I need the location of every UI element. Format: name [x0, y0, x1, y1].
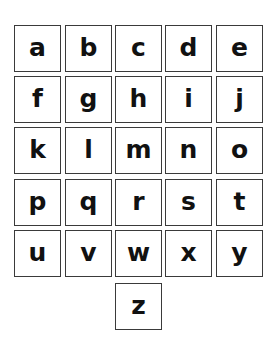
letter-card-s: s	[165, 179, 212, 226]
letter-card-o: o	[216, 127, 263, 174]
letter-label: t	[234, 189, 246, 214]
letter-label: p	[29, 189, 47, 214]
letter-label: j	[235, 86, 244, 111]
letter-card-u: u	[14, 230, 61, 277]
letter-card-p: p	[14, 179, 61, 226]
letter-card-k: k	[14, 127, 61, 174]
letter-card-z: z	[115, 283, 162, 330]
letter-card-r: r	[115, 179, 162, 226]
letter-label: r	[132, 189, 144, 214]
letter-card-b: b	[65, 25, 112, 72]
letter-card-y: y	[216, 230, 263, 277]
letter-card-v: v	[65, 230, 112, 277]
letter-label: k	[29, 137, 46, 162]
letter-label: m	[125, 137, 151, 162]
letter-label: u	[29, 240, 47, 265]
letter-label: b	[80, 35, 98, 60]
letter-card-x: x	[165, 230, 212, 277]
letter-card-e: e	[216, 25, 263, 72]
letter-label: w	[127, 240, 150, 265]
letter-card-g: g	[65, 76, 112, 123]
letter-label: c	[131, 35, 146, 60]
letter-label: z	[131, 293, 146, 318]
letter-card-l: l	[65, 127, 112, 174]
letter-label: n	[180, 137, 198, 162]
letter-label: h	[130, 86, 148, 111]
letter-label: g	[80, 86, 98, 111]
letter-label: a	[29, 35, 46, 60]
letter-card-n: n	[165, 127, 212, 174]
letter-label: q	[80, 189, 98, 214]
letter-card-t: t	[216, 179, 263, 226]
letter-card-m: m	[115, 127, 162, 174]
letter-card-c: c	[115, 25, 162, 72]
letter-card-q: q	[65, 179, 112, 226]
letter-label: l	[84, 137, 93, 162]
letter-card-h: h	[115, 76, 162, 123]
letter-card-a: a	[14, 25, 61, 72]
letter-label: x	[180, 240, 196, 265]
letter-card-f: f	[14, 76, 61, 123]
letter-label: i	[184, 86, 193, 111]
letter-label: s	[181, 189, 196, 214]
letter-label: f	[32, 86, 43, 111]
letter-card-j: j	[216, 76, 263, 123]
letter-label: o	[231, 137, 248, 162]
letter-card-w: w	[115, 230, 162, 277]
letter-card-d: d	[165, 25, 212, 72]
letter-label: e	[231, 35, 248, 60]
letter-label: y	[231, 240, 247, 265]
letter-card-i: i	[165, 76, 212, 123]
letter-label: d	[180, 35, 198, 60]
letter-label: v	[80, 240, 96, 265]
